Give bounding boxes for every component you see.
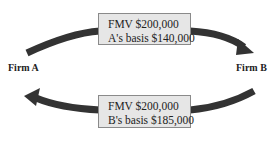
transfer-box-b-to-a: FMV $200,000 B's basis $185,000 (98, 95, 191, 128)
transfer-box-a-to-b: FMV $200,000 A's basis $140,000 (98, 13, 191, 45)
basis-text: A's basis $140,000 (108, 31, 190, 45)
arrowhead-a (24, 88, 40, 106)
basis-text: B's basis $185,000 (108, 113, 190, 127)
fmv-text: FMV $200,000 (108, 99, 190, 113)
fmv-text: FMV $200,000 (108, 17, 190, 31)
firm-b-label: Firm B (236, 62, 267, 73)
firm-a-label: Firm A (8, 62, 39, 73)
arrowhead-b (236, 39, 254, 55)
